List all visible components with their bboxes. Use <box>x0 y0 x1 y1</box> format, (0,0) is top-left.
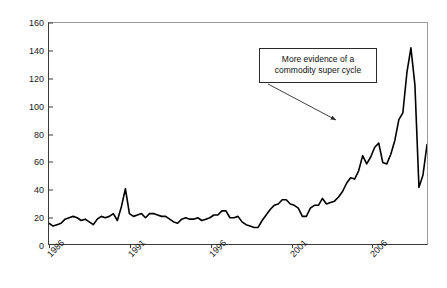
annotation-text-line-2: commodity super cycle <box>263 65 373 76</box>
super-cycle-annotation-box: More evidence of a commodity super cycle <box>259 48 377 83</box>
y-tick-label: 160 <box>29 18 49 28</box>
oil-price-chart-figure: Dollar Price per Barrel 0204060801001201… <box>0 0 447 288</box>
y-tick-label: 120 <box>29 74 49 84</box>
annotation-text-line-1: More evidence of a <box>263 54 373 65</box>
y-tick-label: 140 <box>29 46 49 56</box>
y-tick-label: 40 <box>34 185 49 195</box>
y-tick-label: 80 <box>34 130 49 140</box>
y-tick-label: 60 <box>34 157 49 167</box>
y-tick-label: 100 <box>29 102 49 112</box>
y-tick-label: 20 <box>34 213 49 223</box>
